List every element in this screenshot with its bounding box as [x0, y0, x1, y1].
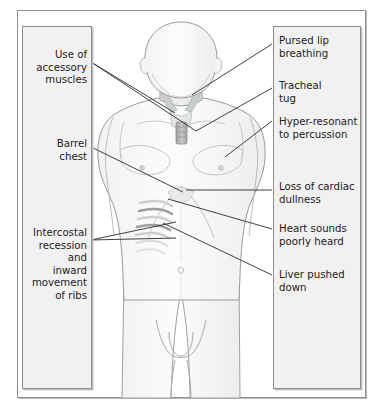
- label-barrel-chest: Barrel chest: [57, 138, 87, 163]
- trachea: [176, 122, 187, 144]
- label-intercostal-recession: Intercostal recession and inward movemen…: [32, 227, 87, 303]
- label-accessory-muscles: Use of accessory muscles: [36, 49, 87, 87]
- body-group: [98, 22, 265, 398]
- left-nipple: [140, 166, 145, 171]
- label-loss-cardiac-dullness: Loss of cardiac dullness: [279, 181, 355, 206]
- right-label-panel: Pursed lip breathing Tracheal tug Hyper-…: [273, 26, 361, 389]
- label-liver-pushed-down: Liver pushed down: [279, 269, 345, 294]
- label-tracheal-tug: Tracheal tug: [279, 80, 322, 105]
- right-nipple: [219, 166, 224, 171]
- diagram-stage: Use of accessory muscles Barrel chest In…: [0, 0, 375, 416]
- head: [145, 22, 217, 98]
- label-heart-sounds: Heart sounds poorly heard: [279, 223, 347, 248]
- label-hyper-resonant: Hyper-resonant to percussion: [279, 116, 358, 141]
- left-label-panel: Use of accessory muscles Barrel chest In…: [22, 26, 92, 389]
- label-pursed-lip-breathing: Pursed lip breathing: [279, 35, 329, 60]
